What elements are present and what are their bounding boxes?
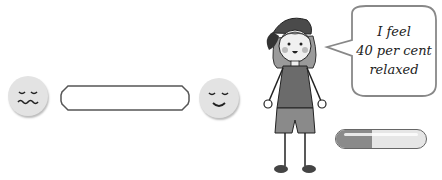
speech-line-2: 40 per cent [354,41,434,60]
calm-face-icon [199,78,239,118]
speech-line-3: relaxed [354,60,434,79]
speech-line-1: I feel [354,22,434,41]
worried-face-icon [8,76,48,116]
speech-bubble: I feel 40 per cent relaxed [322,4,440,98]
progress-highlight [344,133,418,136]
empty-scale-bar [58,84,192,116]
relaxation-progress-bar [335,129,427,149]
